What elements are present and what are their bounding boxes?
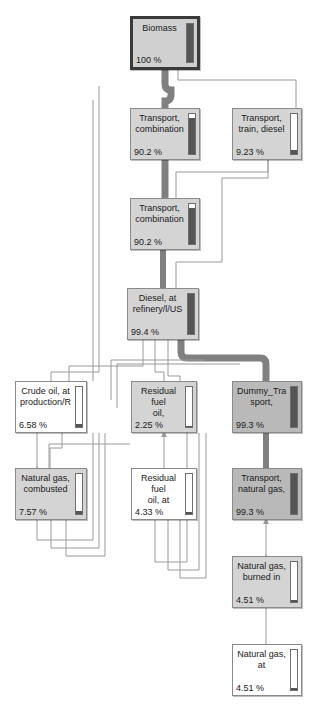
node-gauge bbox=[185, 386, 193, 428]
node-title: Crude oil, atproduction/R bbox=[20, 386, 71, 408]
network-diagram-canvas: Biomass 100 % Transport,combination 90.2… bbox=[0, 0, 319, 712]
node-transport-train-diesel[interactable]: Transport,train, diesel 9.23 % bbox=[232, 108, 302, 160]
node-gauge bbox=[185, 473, 193, 515]
node-natural-gas-burned-in[interactable]: Natural gas,burned in 4.51 % bbox=[232, 556, 302, 608]
node-residual-fuel-oil[interactable]: Residual fueloil, 2.25 % bbox=[131, 381, 197, 433]
node-percent: 7.57 % bbox=[19, 507, 47, 517]
node-percent: 9.23 % bbox=[236, 147, 264, 157]
flow-crude-oil-riser-b bbox=[51, 86, 99, 381]
node-title: Transport,combination bbox=[135, 113, 184, 135]
node-gauge bbox=[75, 386, 83, 428]
node-transport-combination-2[interactable]: Transport,combination 90.2 % bbox=[130, 198, 200, 250]
node-percent: 99.3 % bbox=[236, 420, 264, 430]
node-dummy-transport[interactable]: Dummy_Transport, 99.3 % bbox=[232, 381, 302, 433]
node-percent: 90.2 % bbox=[134, 237, 162, 247]
node-title: Transport,combination bbox=[135, 203, 184, 225]
node-title: Dummy_Transport, bbox=[237, 386, 286, 408]
node-title: Natural gas,combusted bbox=[20, 473, 71, 495]
node-percent: 4.51 % bbox=[236, 595, 264, 605]
node-title: Residual fueloil, bbox=[136, 386, 181, 419]
node-gauge bbox=[187, 293, 195, 335]
node-percent: 100 % bbox=[136, 55, 162, 65]
node-percent: 6.58 % bbox=[19, 420, 47, 430]
node-gauge bbox=[75, 473, 83, 515]
node-transport-combination-1[interactable]: Transport,combination 90.2 % bbox=[130, 108, 200, 160]
node-gauge bbox=[290, 113, 298, 155]
node-title: Transport,natural gas, bbox=[237, 473, 286, 495]
node-gauge bbox=[290, 649, 298, 691]
node-residual-fuel-oil-at[interactable]: Residual fueloil, at 4.33 % bbox=[131, 468, 197, 520]
node-transport-natural-gas[interactable]: Transport,natural gas, 99.3 % bbox=[232, 468, 302, 520]
node-natural-gas-combusted[interactable]: Natural gas,combusted 7.57 % bbox=[15, 468, 87, 520]
node-percent: 99.3 % bbox=[236, 507, 264, 517]
node-biomass[interactable]: Biomass 100 % bbox=[130, 16, 200, 70]
node-title: Transport,train, diesel bbox=[237, 113, 286, 135]
node-natural-gas-at[interactable]: Natural gas,at 4.51 % bbox=[232, 644, 302, 696]
node-gauge bbox=[186, 23, 194, 63]
node-gauge bbox=[290, 561, 298, 603]
node-percent: 4.33 % bbox=[135, 507, 163, 517]
node-percent: 2.25 % bbox=[135, 420, 163, 430]
node-percent: 4.51 % bbox=[236, 683, 264, 693]
node-title: Diesel, atrefinery/l/US bbox=[132, 293, 183, 315]
flow-biomass-to-transport-combination-1 bbox=[165, 70, 171, 108]
node-crude-oil-at-production[interactable]: Crude oil, atproduction/R 6.58 % bbox=[15, 381, 87, 433]
node-percent: 90.2 % bbox=[134, 147, 162, 157]
node-gauge bbox=[188, 203, 196, 245]
node-gauge bbox=[290, 473, 298, 515]
node-diesel-at-refinery[interactable]: Diesel, atrefinery/l/US 99.4 % bbox=[127, 288, 199, 340]
flow-biomass-to-transport-train-diesel bbox=[178, 70, 296, 108]
node-title: Natural gas,at bbox=[237, 649, 286, 671]
node-title: Natural gas,burned in bbox=[237, 561, 286, 583]
node-gauge bbox=[188, 113, 196, 155]
node-gauge bbox=[290, 386, 298, 428]
node-percent: 99.4 % bbox=[131, 327, 159, 337]
node-title: Biomass bbox=[137, 23, 182, 34]
node-title: Residual fueloil, at bbox=[136, 473, 181, 506]
flow-crude-to-natgas-b bbox=[50, 433, 62, 468]
